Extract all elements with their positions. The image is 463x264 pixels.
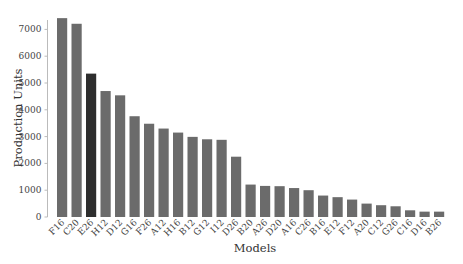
bar-i12 bbox=[217, 140, 227, 217]
y-tick-label: 7000 bbox=[19, 24, 42, 34]
bar-c26 bbox=[304, 190, 314, 217]
bar-f26 bbox=[144, 124, 154, 217]
bar-f16 bbox=[57, 18, 67, 217]
bar-c16 bbox=[405, 210, 415, 217]
y-axis-title: Production Units bbox=[11, 68, 25, 167]
bar-b12 bbox=[188, 137, 198, 217]
x-axis-labels: F16C20E26H12D12G16F26A12H16B12G12I12D26B… bbox=[47, 217, 444, 238]
bar-g26 bbox=[391, 206, 401, 217]
bar-e12 bbox=[333, 197, 343, 217]
bar-h12 bbox=[101, 91, 111, 217]
bar-chart: 01000200030004000500060007000 F16C20E26H… bbox=[0, 0, 463, 264]
bar-d12 bbox=[115, 95, 125, 217]
bar-b26 bbox=[434, 212, 444, 217]
bar-g16 bbox=[130, 116, 140, 217]
bar-a16 bbox=[289, 188, 299, 217]
bars bbox=[57, 18, 444, 217]
x-tick-label: B26 bbox=[424, 217, 444, 237]
bar-b16 bbox=[318, 196, 328, 217]
bar-h16 bbox=[173, 133, 183, 217]
bar-f12 bbox=[347, 200, 357, 217]
bar-c20 bbox=[72, 24, 82, 217]
y-tick-label: 6000 bbox=[19, 51, 42, 61]
bar-a20 bbox=[362, 204, 372, 217]
y-tick-label: 1000 bbox=[19, 185, 42, 195]
y-tick-label: 0 bbox=[36, 212, 42, 222]
bar-b20 bbox=[246, 185, 256, 217]
bar-e26 bbox=[86, 74, 96, 217]
x-axis-title: Models bbox=[234, 241, 277, 255]
bar-c12 bbox=[376, 205, 386, 217]
bar-d16 bbox=[420, 212, 430, 217]
bar-g12 bbox=[202, 139, 212, 217]
bar-a26 bbox=[260, 186, 270, 217]
bar-d26 bbox=[231, 157, 241, 217]
bar-d20 bbox=[275, 186, 285, 217]
bar-a12 bbox=[159, 129, 169, 217]
